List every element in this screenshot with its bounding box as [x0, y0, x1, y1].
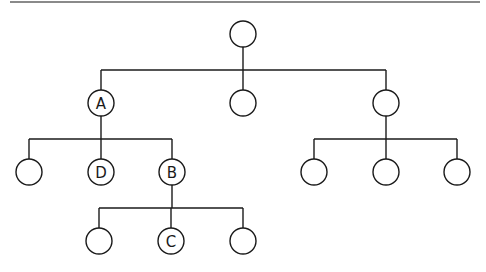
tree-node-n1c: B: [159, 159, 185, 185]
node-label: D: [95, 164, 107, 182]
node-circle: [373, 90, 399, 116]
node-circle: [16, 159, 42, 185]
node-label: C: [166, 233, 176, 251]
edges: [29, 47, 457, 228]
node-circle: [230, 90, 256, 116]
tree-node-n3a: [301, 159, 327, 185]
tree-diagram: ADBC: [0, 0, 486, 272]
node-circle: [301, 159, 327, 185]
tree-node-n1b: D: [88, 159, 114, 185]
tree-node-n3: [373, 90, 399, 116]
tree-node-n3b: [373, 159, 399, 185]
node-circle: [86, 228, 112, 254]
node-label: B: [167, 164, 177, 182]
tree-node-n1cb: C: [158, 228, 184, 254]
tree-node-n1cc: [230, 228, 256, 254]
tree-node-n3c: [444, 159, 470, 185]
tree-node-n1: A: [88, 90, 114, 116]
node-label: A: [96, 95, 107, 113]
tree-node-root: [230, 21, 256, 47]
node-circle: [373, 159, 399, 185]
node-circle: [444, 159, 470, 185]
node-circle: [230, 21, 256, 47]
node-circle: [230, 228, 256, 254]
tree-node-n1ca: [86, 228, 112, 254]
tree-node-n2: [230, 90, 256, 116]
tree-node-n1a: [16, 159, 42, 185]
